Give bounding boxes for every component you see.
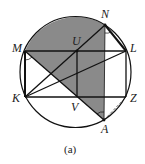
label-M: M bbox=[11, 41, 23, 55]
label-Z: Z bbox=[130, 91, 137, 105]
label-U: U bbox=[72, 34, 82, 48]
label-V: V bbox=[71, 100, 80, 114]
label-L: L bbox=[129, 41, 137, 55]
geometry-diagram: M U N L K V Z A (a) bbox=[0, 0, 145, 164]
segment-NL bbox=[105, 25, 126, 51]
point-N-dot bbox=[104, 24, 107, 27]
point-U-dot bbox=[76, 50, 79, 53]
figure-caption: (a) bbox=[64, 143, 77, 156]
angle-mark-N bbox=[105, 32, 111, 33]
angle-mark-M bbox=[25, 57, 32, 60]
point-A-dot bbox=[103, 119, 106, 122]
segment-AZ bbox=[104, 97, 126, 120]
label-A: A bbox=[100, 122, 109, 136]
label-N: N bbox=[100, 7, 110, 21]
label-K: K bbox=[11, 91, 21, 105]
